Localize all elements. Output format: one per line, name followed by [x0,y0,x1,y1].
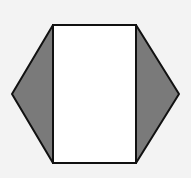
right-shaded-triangle [136,25,179,163]
center-rectangle [53,25,136,163]
hexagon-figure [0,0,191,178]
left-shaded-triangle [12,25,53,163]
